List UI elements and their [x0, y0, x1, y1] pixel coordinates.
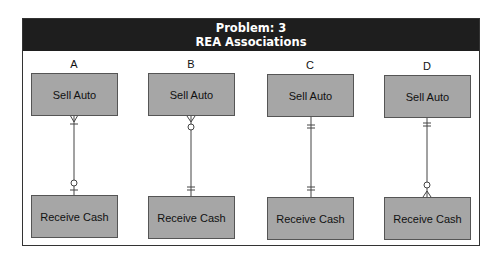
entity-receive-cash-d: Receive Cash [384, 197, 471, 240]
entity-sell-auto-d: Sell Auto [384, 75, 471, 118]
zero-circle-icon [71, 180, 77, 186]
association-d [423, 118, 431, 197]
association-b [187, 116, 195, 196]
entity-sell-auto-c: Sell Auto [267, 74, 354, 117]
entity-sell-auto-b: Sell Auto [148, 73, 235, 116]
association-a [70, 115, 78, 195]
entity-receive-cash-a: Receive Cash [31, 195, 118, 238]
zero-circle-icon [424, 182, 430, 188]
entity-receive-cash-c: Receive Cash [267, 197, 354, 240]
association-c [307, 117, 315, 197]
entity-receive-cash-b: Receive Cash [148, 196, 235, 239]
entity-sell-auto-a: Sell Auto [31, 73, 118, 116]
zero-circle-icon [188, 124, 194, 130]
